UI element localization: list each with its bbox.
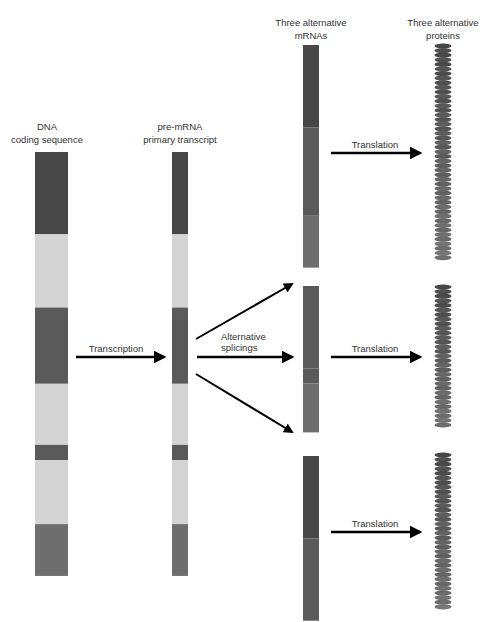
amino-acid-residue — [435, 508, 452, 513]
amino-acid-residue — [435, 577, 452, 582]
amino-acid-residue — [435, 168, 452, 173]
pre-mrna-label-line2: primary transcript — [143, 134, 217, 145]
proteins-label-line1: Three alternative — [407, 17, 478, 28]
amino-acid-residue — [435, 80, 452, 85]
transcription-label: Transcription — [89, 343, 144, 354]
amino-acid-residue — [435, 43, 452, 48]
amino-acid-residue — [435, 303, 452, 308]
amino-acid-residue — [435, 94, 452, 99]
amino-acid-residue — [435, 85, 452, 90]
intron-segment-intron-1 — [35, 234, 68, 307]
amino-acid-residue — [435, 372, 452, 377]
amino-acid-residue — [435, 485, 452, 490]
translation-label-1: Translation — [352, 139, 399, 150]
amino-acid-residue — [435, 581, 452, 586]
mrna-bars — [303, 45, 319, 621]
amino-acid-residue — [435, 76, 452, 81]
amino-acid-residue — [435, 586, 452, 591]
amino-acid-residue — [435, 404, 452, 409]
dna-bar — [35, 152, 68, 576]
amino-acid-residue — [435, 480, 452, 485]
intron-segment-intron-1 — [172, 234, 188, 307]
amino-acid-residue — [435, 108, 452, 113]
exon-segment-exon-1 — [172, 152, 188, 234]
amino-acid-residue — [435, 367, 452, 372]
amino-acid-residue — [435, 246, 452, 251]
amino-acid-residue — [435, 503, 452, 508]
amino-acid-residue — [435, 177, 452, 182]
protein-2 — [435, 284, 452, 427]
intron-segment-intron-2 — [35, 384, 68, 445]
amino-acid-residue — [435, 241, 452, 246]
amino-acid-residue — [435, 386, 452, 391]
translation-label-3: Translation — [352, 518, 399, 529]
amino-acid-residue — [435, 312, 452, 317]
exon-segment-exon-4 — [172, 524, 188, 576]
amino-acid-residue — [435, 452, 452, 457]
amino-acid-residue — [435, 195, 452, 200]
amino-acid-residue — [435, 250, 452, 255]
amino-acid-residue — [435, 191, 452, 196]
amino-acid-residue — [435, 326, 452, 331]
exon-segment-exon-1 — [303, 45, 319, 127]
amino-acid-residue — [435, 307, 452, 312]
amino-acid-residue — [435, 531, 452, 536]
amino-acid-residue — [435, 321, 452, 326]
amino-acid-residue — [435, 289, 452, 294]
amino-acid-residue — [435, 526, 452, 531]
mrna-3 — [303, 456, 319, 621]
amino-acid-residue — [435, 214, 452, 219]
splicing-label-line2: splicings — [221, 342, 258, 353]
amino-acid-residue — [435, 298, 452, 303]
amino-acid-residue — [435, 544, 452, 549]
amino-acid-residue — [435, 66, 452, 71]
exon-segment-exon-3 — [35, 445, 68, 460]
exon-segment-exon-2 — [172, 308, 188, 384]
exon-segment-exon-4 — [303, 216, 319, 268]
exon-segment-exon-2 — [303, 127, 319, 215]
protein-3 — [435, 452, 452, 609]
amino-acid-residue — [435, 284, 452, 289]
amino-acid-residue — [435, 294, 452, 299]
amino-acid-residue — [435, 554, 452, 559]
amino-acid-residue — [435, 517, 452, 522]
intron-segment-intron-3 — [35, 460, 68, 524]
dna-label-line1: DNA — [37, 121, 58, 132]
amino-acid-residue — [435, 163, 452, 168]
amino-acid-residue — [435, 363, 452, 368]
dna-label-line2: coding sequence — [11, 134, 83, 145]
amino-acid-residue — [435, 140, 452, 145]
amino-acid-residue — [435, 409, 452, 414]
exon-segment-exon-3 — [172, 445, 188, 460]
mrnas-label-line2: mRNAs — [295, 30, 328, 41]
pre-mrna-bar — [172, 152, 188, 576]
amino-acid-residue — [435, 145, 452, 150]
amino-acid-residue — [435, 126, 452, 131]
amino-acid-residue — [435, 237, 452, 242]
amino-acid-residue — [435, 521, 452, 526]
amino-acid-residue — [435, 149, 452, 154]
amino-acid-residue — [435, 595, 452, 600]
amino-acid-residue — [435, 48, 452, 53]
amino-acid-residue — [435, 540, 452, 545]
amino-acid-residue — [435, 200, 452, 205]
amino-acid-residue — [435, 112, 452, 117]
amino-acid-residue — [435, 335, 452, 340]
amino-acid-residue — [435, 563, 452, 568]
amino-acid-residue — [435, 462, 452, 467]
amino-acid-residue — [435, 558, 452, 563]
amino-acid-residue — [435, 131, 452, 136]
amino-acid-residue — [435, 590, 452, 595]
amino-acid-residue — [435, 567, 452, 572]
amino-acid-residue — [435, 232, 452, 237]
amino-acid-residue — [435, 255, 452, 260]
exon-segment-exon-4 — [303, 384, 319, 433]
amino-acid-residue — [435, 489, 452, 494]
splicing-diagram: DNA coding sequence pre-mRNA primary tra… — [0, 0, 488, 622]
amino-acid-residue — [435, 399, 452, 404]
amino-acid-residue — [435, 549, 452, 554]
amino-acid-residue — [435, 135, 452, 140]
amino-acid-residue — [435, 390, 452, 395]
amino-acid-residue — [435, 89, 452, 94]
amino-acid-residue — [435, 353, 452, 358]
